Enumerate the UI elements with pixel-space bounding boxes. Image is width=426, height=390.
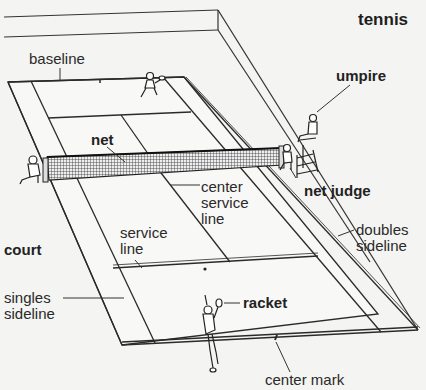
- leader-center-mark: [276, 342, 290, 372]
- leader-umpire: [317, 85, 350, 112]
- left-net-judge-figure: [20, 156, 40, 184]
- label-center-service-line: center service line: [201, 179, 249, 227]
- label-service-line: service line: [120, 225, 168, 257]
- umpire-chair: [297, 138, 318, 178]
- label-singles-sideline: singles sideline: [4, 290, 55, 322]
- leader-net-judge: [290, 168, 296, 178]
- label-court: court: [4, 242, 42, 258]
- label-center-mark: center mark: [265, 372, 344, 388]
- label-umpire: umpire: [336, 68, 386, 84]
- label-net-judge: net judge: [304, 183, 371, 199]
- diagram-title: tennis: [358, 12, 408, 28]
- label-racket: racket: [243, 295, 287, 311]
- left-net-post: [43, 158, 48, 182]
- label-net: net: [91, 132, 114, 148]
- label-doubles-sideline: doubles sideline: [356, 222, 409, 254]
- label-baseline: baseline: [29, 51, 85, 67]
- tennis-ball: [203, 267, 206, 270]
- center-mark: [275, 335, 277, 340]
